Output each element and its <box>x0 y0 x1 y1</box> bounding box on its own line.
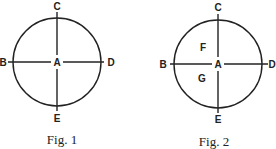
label-e-fig1: E <box>54 113 61 124</box>
label-c-fig1: C <box>53 1 60 12</box>
label-c-fig2: C <box>214 2 221 13</box>
label-f-fig2: F <box>200 42 206 53</box>
caption-fig1: Fig. 1 <box>47 132 77 147</box>
label-d-fig2: D <box>268 59 275 70</box>
label-b-fig2: B <box>159 59 166 70</box>
figure-1: C A B D E Fig. 1 <box>0 1 115 147</box>
label-a-fig2: A <box>214 59 221 70</box>
figure-2: C A B D E F G Fig. 2 <box>159 2 275 149</box>
diagram-canvas: C A B D E Fig. 1 C A B D E F G Fig. 2 <box>0 0 276 149</box>
label-b-fig1: B <box>0 57 7 68</box>
label-e-fig2: E <box>215 114 222 125</box>
label-g-fig2: G <box>198 73 206 84</box>
label-d-fig1: D <box>107 57 114 68</box>
caption-fig2: Fig. 2 <box>199 134 229 149</box>
label-a-fig1: A <box>53 57 60 68</box>
